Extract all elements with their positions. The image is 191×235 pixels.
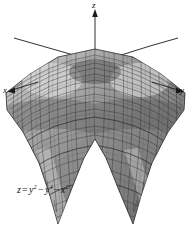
z-axis-arrowhead: [92, 9, 98, 17]
equation-caption: z=y2−y4−x2: [17, 184, 69, 195]
y-axis-label: y: [180, 86, 184, 95]
equation-operator-2: −: [53, 184, 61, 195]
surface-plot-figure: x y z z=y2−y4−x2: [0, 0, 191, 235]
z-axis-label: z: [92, 1, 96, 10]
surface-plot-canvas: [0, 0, 191, 235]
x-axis-label: x: [3, 86, 7, 95]
equation-operator-1: −: [37, 184, 45, 195]
y-axis-line-upper: [150, 38, 178, 46]
equation-term3-exponent: 2: [65, 183, 68, 190]
equation-equals: =: [21, 184, 29, 195]
x-axis-line-upper: [14, 38, 42, 46]
